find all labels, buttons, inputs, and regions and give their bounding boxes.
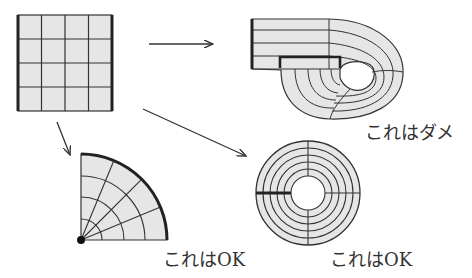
label-ok-quarter: これはOK	[163, 251, 245, 269]
quarter-disk-figure	[77, 154, 167, 244]
source-grid	[18, 15, 112, 111]
label-bad: これはダメ	[365, 124, 454, 142]
arrow-down	[57, 122, 70, 155]
center-point	[77, 236, 85, 244]
label-ok-annulus: これはOK	[330, 251, 412, 269]
arrow-down-right	[143, 109, 246, 156]
annulus-figure	[256, 141, 360, 245]
bad-mapping-figure	[252, 19, 403, 119]
